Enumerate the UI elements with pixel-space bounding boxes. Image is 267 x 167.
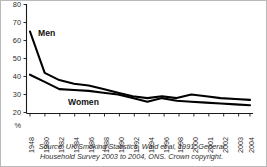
- source-note: Source: UK Smoking Statistics, Wald et a…: [1, 142, 262, 162]
- y-tick-label-40: 40: [13, 72, 21, 81]
- source-note-line-2: Household Survey 2003 to 2004, ONS. Crow…: [1, 152, 262, 162]
- y-tick-label-80: 80: [13, 1, 21, 9]
- series-line-women: [30, 75, 250, 106]
- source-note-line-1: Source: UK Smoking Statistics, Wald et a…: [1, 142, 262, 152]
- y-tick-label-30: 30: [13, 90, 21, 99]
- data-series-group: [30, 32, 250, 106]
- y-tick-label-50: 50: [13, 54, 21, 63]
- series-label-men: Men: [38, 28, 55, 38]
- smoking-prevalence-chart-figure: 80 70 60 50 40 30 20 %: [0, 0, 267, 167]
- y-tick-label-70: 70: [13, 18, 21, 27]
- y-axis-unit-label: %: [14, 121, 21, 130]
- series-annotations: Men Women: [38, 28, 99, 107]
- series-label-women: Women: [68, 97, 99, 107]
- y-tick-label-20: 20: [13, 108, 21, 117]
- y-axis-group: 80 70 60 50 40 30 20 %: [13, 1, 27, 130]
- y-tick-label-60: 60: [13, 36, 21, 45]
